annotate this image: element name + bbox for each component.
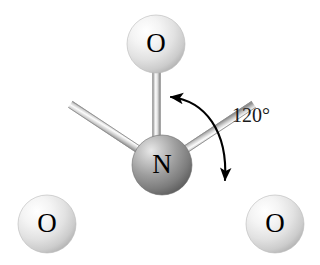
atom-group xyxy=(18,15,304,253)
molecular-structure-figure: O N O O 120° xyxy=(0,0,320,265)
nitrogen-sphere xyxy=(132,135,192,195)
oxygen-bottom-left-sphere xyxy=(18,195,76,253)
oxygen-bottom-right-sphere xyxy=(246,195,304,253)
bond-angle-label: 120° xyxy=(232,104,290,126)
molecule-diagram xyxy=(0,0,320,265)
oxygen-top-sphere xyxy=(127,15,185,73)
